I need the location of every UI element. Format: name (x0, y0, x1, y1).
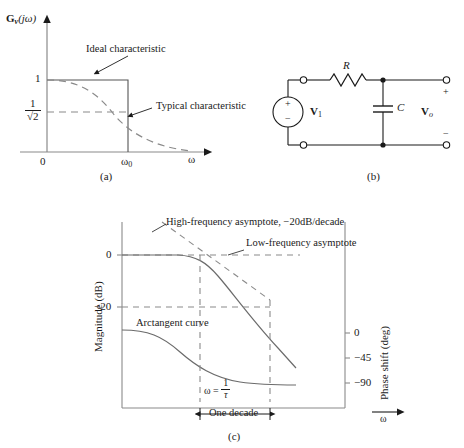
corner-frequency-annotation: ω = 1 τ (204, 378, 230, 400)
annotation-low-frequency-asymptote: Low-frequency asymptote (246, 238, 357, 249)
panel-c-right-axis-label: Phase shift (deg) (378, 326, 390, 400)
phase-tick-neg90-label: −90 (354, 377, 371, 388)
high-frequency-leader-line (152, 224, 166, 232)
panel-c-x-axis-label: ω (380, 414, 387, 424)
panel-c-left-axis-label: Magnitude (dB) (92, 281, 104, 352)
phase-tick-0-label: 0 (354, 327, 360, 338)
annotation-high-frequency-asymptote: High-frequency asymptote, −20dB/decade (166, 217, 344, 228)
mag-tick-neg20-label: −20 (94, 301, 111, 312)
phase-tick-neg45-label: −45 (354, 352, 371, 363)
annotation-arctangent-curve: Arctangent curve (136, 318, 209, 329)
high-frequency-asymptote-line (162, 222, 270, 300)
low-frequency-leader-line (228, 250, 244, 255)
figure-container: Gv(jω) 1 1 √2 0 ω0 ω Ideal characteristi… (0, 0, 464, 448)
one-decade-label: One decade (209, 408, 258, 419)
panel-c-caption: (c) (228, 430, 240, 442)
mag-tick-0-label: 0 (106, 249, 112, 260)
